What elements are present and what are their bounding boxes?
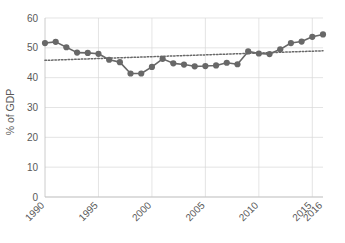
x-tick-labels: 1990199520002005201020152016 (23, 199, 325, 223)
data-point-marker (138, 70, 144, 76)
data-point-marker (234, 61, 240, 67)
y-tick-label: 60 (27, 13, 39, 24)
y-tick-label: 50 (27, 42, 39, 53)
data-point-marker (309, 34, 315, 40)
data-point-marker (266, 51, 272, 57)
y-tick-label: 10 (27, 162, 39, 173)
data-point-marker (245, 48, 251, 54)
chart-figure: 0102030405060 19901995200020052010201520… (0, 0, 345, 243)
data-point-marker (299, 38, 305, 44)
data-point-marker (288, 40, 294, 46)
y-tick-labels: 0102030405060 (27, 13, 39, 203)
data-point-marker (149, 64, 155, 70)
data-point-marker (106, 57, 112, 63)
y-axis-title-text: % of GDP (4, 89, 16, 136)
data-point-marker (74, 50, 80, 56)
x-tick-label: 1990 (23, 199, 47, 223)
x-tick-label: 2005 (183, 199, 207, 223)
x-tick-label: 2000 (130, 199, 154, 223)
data-point-marker (85, 50, 91, 56)
x-tick-label: 1995 (76, 199, 100, 223)
data-point-marker (127, 70, 133, 76)
data-point-marker (277, 46, 283, 52)
y-tick-label: 40 (27, 72, 39, 83)
y-tick-label: 20 (27, 132, 39, 143)
data-point-marker (95, 51, 101, 57)
data-point-marker (192, 63, 198, 69)
y-tick-label: 30 (27, 102, 39, 113)
y-axis-title: % of GDP (4, 89, 16, 136)
chart-canvas: 0102030405060 19901995200020052010201520… (0, 0, 345, 243)
data-point-marker (53, 39, 59, 45)
data-point-marker (320, 31, 326, 37)
data-point-marker (224, 60, 230, 66)
x-tick-label: 2010 (237, 199, 261, 223)
data-point-marker (170, 60, 176, 66)
data-point-marker (181, 61, 187, 67)
data-point-marker (160, 56, 166, 62)
data-point-marker (213, 62, 219, 68)
data-point-marker (256, 50, 262, 56)
data-point-marker (63, 44, 69, 50)
data-point-marker (202, 63, 208, 69)
data-point-marker (42, 40, 48, 46)
data-point-marker (117, 59, 123, 65)
